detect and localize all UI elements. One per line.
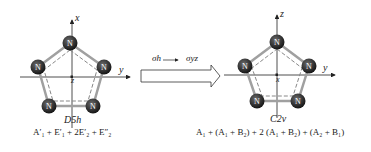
svg-text:N: N xyxy=(101,63,107,72)
left-atom: N xyxy=(31,60,46,75)
right-atom: N xyxy=(250,94,265,109)
right-representation: A₁ + (A₁ + B₂) + 2 (A₁ + B₂) + (A₂ + B₁) xyxy=(196,127,344,137)
right-atom: N xyxy=(291,94,306,109)
svg-text:N: N xyxy=(35,63,41,72)
left-atom: N xyxy=(97,60,112,75)
right-atom: N xyxy=(302,59,317,74)
right-axis-x-label: x xyxy=(276,75,280,84)
left-atom: N xyxy=(86,99,101,114)
left-axis-z-label: z xyxy=(71,76,74,85)
svg-text:N: N xyxy=(254,97,260,106)
svg-text:N: N xyxy=(46,102,52,111)
svg-text:N: N xyxy=(242,62,248,71)
left-representation: A′₁ + E′₁ + 2E′₂ + E″₂ xyxy=(33,127,111,137)
right-molecule: N N N N N xyxy=(224,15,335,118)
left-atom: N xyxy=(42,99,57,114)
left-molecule: N N N N N xyxy=(20,20,130,128)
svg-text:N: N xyxy=(67,39,73,48)
transition-from-label: σh xyxy=(152,53,161,63)
right-axis-z-label: z xyxy=(280,8,284,19)
right-atom: N xyxy=(238,59,253,74)
svg-text:N: N xyxy=(90,102,96,111)
left-point-group: D5h xyxy=(64,114,81,125)
left-axis-x-label: x xyxy=(75,12,79,23)
transformation-arrow xyxy=(141,60,220,87)
right-point-group: C2v xyxy=(270,113,286,124)
svg-text:N: N xyxy=(274,38,280,47)
right-axis-y-label: y xyxy=(323,62,327,73)
svg-text:N: N xyxy=(306,62,312,71)
left-ring-outer xyxy=(38,43,104,106)
right-atom: N xyxy=(270,35,285,50)
left-atom: N xyxy=(63,36,78,51)
left-axis-y-label: y xyxy=(119,64,123,75)
svg-text:N: N xyxy=(295,97,301,106)
transition-to-label: σyz xyxy=(186,53,198,63)
